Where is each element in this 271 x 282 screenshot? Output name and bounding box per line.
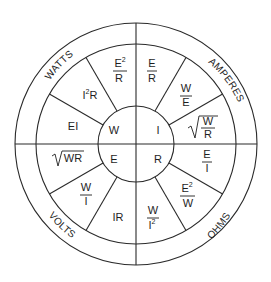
svg-text:W: W xyxy=(203,115,214,127)
svg-text:R: R xyxy=(115,72,123,84)
center-amperes-symbol: I xyxy=(156,124,159,136)
svg-text:E2: E2 xyxy=(181,181,192,194)
ring-label-ohms: OHMS xyxy=(205,210,233,241)
svg-text:IR: IR xyxy=(113,211,124,223)
formula-amperes-e-over-r: E R xyxy=(147,57,157,84)
formula-ohms-e-over-i: E I xyxy=(202,148,212,174)
ring-label-volts: VOLTS xyxy=(47,210,78,241)
formula-volts-w-over-i: W I xyxy=(80,181,92,207)
ohms-law-wheel: W I E R WATTS AMPERES VOLTS OHMS EI I2R … xyxy=(0,0,271,282)
formula-amperes-sqrt-w-over-r: W R xyxy=(188,115,218,140)
formula-volts-ir: IR xyxy=(113,211,124,223)
svg-text:E2: E2 xyxy=(114,56,125,69)
formula-watts-i2r: I2R xyxy=(83,88,98,101)
formula-watts-ei: EI xyxy=(68,120,78,132)
svg-text:WR: WR xyxy=(64,152,82,164)
formula-amperes-w-over-e: W E xyxy=(180,82,192,108)
ring-label-watts: WATTS xyxy=(42,48,75,82)
svg-text:R: R xyxy=(204,128,212,140)
formula-ohms-e2-over-w: E2 W xyxy=(180,181,195,209)
svg-text:W: W xyxy=(181,82,192,94)
svg-text:R: R xyxy=(148,72,156,84)
svg-text:W: W xyxy=(183,197,194,209)
svg-text:I2R: I2R xyxy=(83,88,98,101)
formula-volts-sqrt-wr: WR xyxy=(52,151,84,166)
svg-text:E: E xyxy=(182,96,189,108)
center-volts-symbol: E xyxy=(110,153,117,165)
formula-ohms-w-over-i2: W I2 xyxy=(147,204,159,231)
svg-text:E: E xyxy=(148,57,155,69)
svg-text:I: I xyxy=(205,162,208,174)
center-watts-symbol: W xyxy=(109,124,120,136)
svg-text:I: I xyxy=(84,195,87,207)
svg-text:W: W xyxy=(81,181,92,193)
svg-text:EI: EI xyxy=(68,120,78,132)
center-ohms-symbol: R xyxy=(154,153,162,165)
formula-watts-e2-over-r: E2 R xyxy=(113,56,127,84)
svg-text:W: W xyxy=(148,204,159,216)
svg-text:E: E xyxy=(203,148,210,160)
svg-text:I2: I2 xyxy=(149,218,156,231)
